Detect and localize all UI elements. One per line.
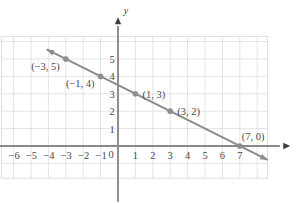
data-point-label: (−3, 5) (31, 61, 60, 73)
data-point-label: (3, 2) (177, 106, 200, 118)
y-axis-tick-labels: 12345 (109, 54, 115, 135)
x-tick-label: 7 (237, 150, 242, 161)
origin-tick-label: 0 (108, 149, 113, 160)
x-tick-label: −6 (9, 150, 20, 161)
axes (0, 17, 290, 201)
y-tick-label: 1 (109, 124, 114, 135)
data-point-marker (63, 56, 68, 61)
data-point-marker (168, 109, 173, 114)
data-point-label: (1, 3) (142, 89, 165, 101)
y-axis-label: y (123, 5, 129, 16)
x-tick-label: −4 (43, 150, 55, 161)
x-tick-label: −2 (78, 150, 89, 161)
y-tick-label: 2 (109, 106, 114, 117)
x-tick-label: −3 (61, 150, 72, 161)
x-tick-label: −5 (26, 150, 37, 161)
data-point-marker (98, 74, 103, 79)
coordinate-plane-chart: −6−5−4−3−2−11234567 12345 0 x y (−3, 5)(… (0, 0, 299, 203)
y-tick-label: 5 (109, 54, 114, 65)
data-point-marker (237, 143, 242, 148)
data-point-label: (7, 0) (242, 131, 265, 143)
y-tick-label: 3 (109, 89, 114, 100)
x-tick-label: 1 (133, 150, 138, 161)
data-point-marker (133, 91, 138, 96)
x-tick-label: −1 (96, 150, 107, 161)
data-point-label: (−1, 4) (66, 78, 95, 90)
x-tick-label: 4 (185, 150, 191, 161)
plotted-line (47, 49, 268, 159)
x-tick-label: 2 (150, 150, 155, 161)
graph-figure: −6−5−4−3−2−11234567 12345 0 x y (−3, 5)(… (0, 0, 299, 203)
x-tick-label: 3 (168, 150, 173, 161)
x-tick-label: 5 (202, 150, 207, 161)
x-axis-tick-labels: −6−5−4−3−2−11234567 (9, 150, 243, 161)
data-point-labels: (−3, 5)(−1, 4)(1, 3)(3, 2)(7, 0) (31, 61, 265, 143)
x-tick-label: 6 (220, 150, 225, 161)
